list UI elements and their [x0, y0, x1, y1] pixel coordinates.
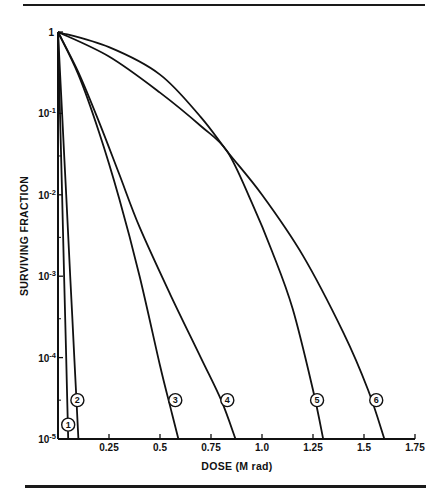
curve-label-1: 1: [62, 418, 75, 431]
curve-labels: 123456: [62, 394, 383, 432]
curve-label-5: 5: [311, 394, 324, 407]
label-number: 6: [374, 395, 379, 405]
x-tick-label: 1.75: [405, 442, 425, 453]
x-tick-label: 0.75: [201, 442, 221, 453]
y-tick-label: 10-2: [38, 188, 56, 201]
curve-1: [58, 32, 68, 439]
x-tick-label: 0.5: [153, 442, 167, 453]
x-tick-label: 1.5: [357, 442, 371, 453]
x-tick-label: 0.25: [99, 442, 119, 453]
y-tick-label: 10-1: [38, 106, 56, 119]
x-tick-label: 1.0: [255, 442, 269, 453]
curve-label-4: 4: [221, 394, 234, 407]
y-tick-label: 10-3: [38, 269, 56, 282]
chart: 0.250.50.751.01.251.51.75110-110-210-310…: [0, 0, 445, 492]
x-tick-label: 1.25: [303, 442, 323, 453]
curves: [58, 32, 384, 439]
y-axis-title: SURVIVING FRACTION: [18, 176, 30, 296]
curve-label-3: 3: [169, 394, 182, 407]
curve-2: [58, 32, 78, 439]
y-tick-label: 10-5: [38, 432, 56, 445]
curve-6: [58, 32, 384, 439]
y-tick-label: 1: [48, 27, 54, 38]
label-number: 3: [173, 395, 178, 405]
label-number: 5: [315, 395, 320, 405]
x-axis-title: DOSE (M rad): [201, 460, 272, 472]
curve-label-2: 2: [71, 394, 84, 407]
curve-label-6: 6: [370, 394, 383, 407]
label-number: 4: [225, 395, 230, 405]
y-tick-label: 10-4: [38, 351, 57, 364]
label-number: 1: [66, 420, 71, 430]
label-number: 2: [75, 395, 80, 405]
curve-5: [58, 32, 323, 439]
